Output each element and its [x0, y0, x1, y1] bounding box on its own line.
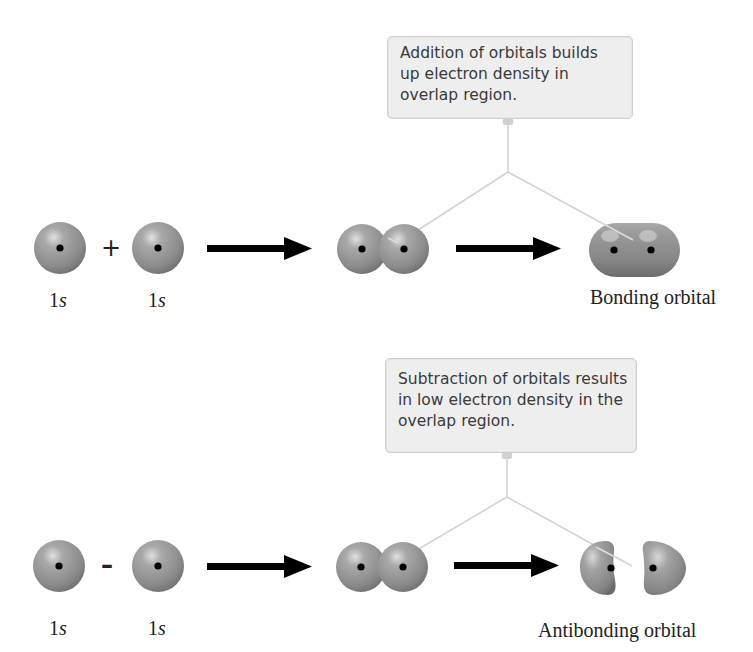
label-number: 1	[49, 617, 59, 639]
label-number: 1	[148, 289, 158, 311]
label-subshell: s	[158, 289, 166, 311]
orbital-label-1s: 1s	[148, 617, 166, 640]
callout-line: Addition of orbitals builds	[400, 43, 622, 64]
atom-1s-a	[33, 540, 85, 592]
antibonding-orbital-shape	[580, 541, 686, 595]
orbital-label-1s: 1s	[49, 617, 67, 640]
label-number: 1	[148, 617, 158, 639]
orbital-label-1s: 1s	[148, 289, 166, 312]
minus-operator: –	[101, 551, 113, 579]
atom-1s-b	[132, 222, 184, 274]
callout-line: overlap region.	[400, 85, 622, 106]
callout-line: in low electron density in the	[398, 390, 626, 411]
overlapping-atoms	[336, 542, 428, 592]
antibonding-row	[33, 451, 686, 595]
arrow-right-icon	[207, 555, 312, 578]
arrow-right-icon	[207, 237, 312, 260]
callout-line: overlap region.	[398, 411, 626, 432]
bonding-connector	[398, 120, 633, 243]
arrow-right-icon	[454, 554, 559, 577]
antibonding-callout: Subtraction of orbitals results in low e…	[385, 358, 637, 453]
callout-line: Subtraction of orbitals results	[398, 369, 626, 390]
atom-1s-a	[34, 222, 86, 274]
plus-operator: +	[101, 234, 121, 262]
callout-line: up electron density in	[400, 64, 622, 85]
antibonding-orbital-label: Antibonding orbital	[538, 619, 696, 642]
atom-1s-b	[132, 540, 184, 592]
bonding-callout: Addition of orbitals builds up electron …	[387, 36, 633, 119]
label-number: 1	[49, 289, 59, 311]
label-subshell: s	[158, 617, 166, 639]
bonding-orbital-shape	[589, 222, 680, 277]
overlapping-atoms	[337, 224, 429, 274]
label-subshell: s	[59, 289, 67, 311]
nucleus-dot	[154, 244, 161, 251]
orbital-label-1s: 1s	[49, 289, 67, 312]
label-subshell: s	[59, 617, 67, 639]
arrow-right-icon	[456, 237, 561, 260]
nucleus-dot	[56, 244, 63, 251]
bonding-row	[34, 117, 680, 277]
bonding-orbital-label: Bonding orbital	[590, 286, 716, 309]
